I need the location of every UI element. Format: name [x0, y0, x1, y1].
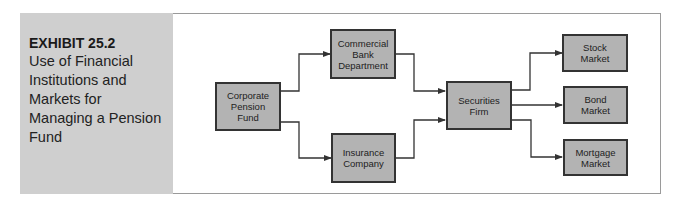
- node-insurance-company: Insurance Company: [331, 133, 396, 183]
- node-corporate-pension-fund: Corporate Pension Fund: [215, 82, 281, 131]
- edge-insurance-to-securities: [395, 120, 445, 158]
- node-commercial-bank-department: Commercial Bank Department: [330, 29, 396, 79]
- edge-securities-to-mortgage: [511, 120, 562, 157]
- node-securities-firm: Securities Firm: [446, 81, 512, 130]
- node-stock-market: Stock Market: [562, 34, 628, 72]
- node-mortgage-market: Mortgage Market: [563, 139, 628, 176]
- edge-securities-to-stock: [511, 53, 562, 90]
- node-bond-market: Bond Market: [563, 86, 628, 124]
- edge-pension-to-insurance: [280, 122, 331, 158]
- edge-pension-to-bank: [280, 54, 330, 91]
- edge-bank-to-securities: [395, 54, 445, 91]
